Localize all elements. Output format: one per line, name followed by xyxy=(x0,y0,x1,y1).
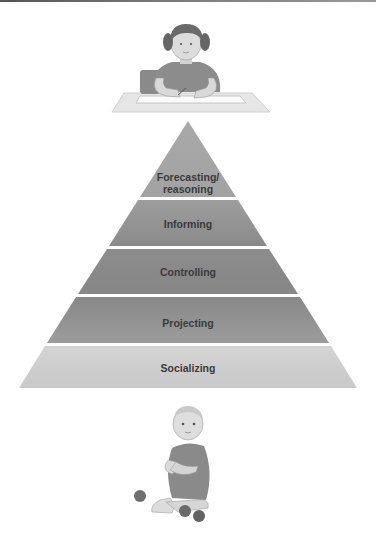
ball-icon xyxy=(179,505,191,517)
baby-illustration xyxy=(0,0,376,546)
ball-icon xyxy=(193,510,205,522)
ball-icon xyxy=(134,490,146,502)
